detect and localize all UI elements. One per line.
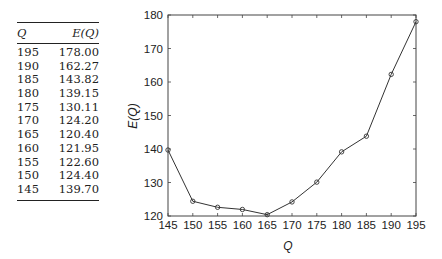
y-tick-label: 160 (144, 76, 163, 88)
x-tick-label: 150 (183, 219, 202, 231)
plot-frame (168, 15, 416, 216)
x-tick-label: 160 (233, 219, 252, 231)
y-tick-label: 150 (144, 110, 163, 122)
y-tick-label: 170 (144, 43, 163, 55)
y-tick-label: 140 (144, 143, 163, 155)
x-tick-label: 195 (406, 219, 425, 231)
x-tick-label: 185 (357, 219, 376, 231)
y-axis-label: E(Q) (126, 103, 140, 128)
y-tick-label: 120 (144, 210, 163, 222)
axes: 1451501551601651701751801851901951201301… (144, 9, 426, 231)
y-tick-label: 180 (144, 9, 163, 21)
x-tick-label: 180 (332, 219, 351, 231)
line-chart: 1451501551601651701751801851901951201301… (0, 0, 442, 259)
x-tick-label: 170 (282, 219, 301, 231)
x-tick-label: 165 (258, 219, 277, 231)
x-tick-label: 155 (208, 219, 227, 231)
x-axis-label: Q (283, 239, 292, 253)
x-tick-label: 190 (382, 219, 401, 231)
plot-series (166, 20, 418, 217)
series-line (168, 22, 416, 215)
y-tick-label: 130 (144, 177, 163, 189)
x-tick-label: 175 (307, 219, 326, 231)
